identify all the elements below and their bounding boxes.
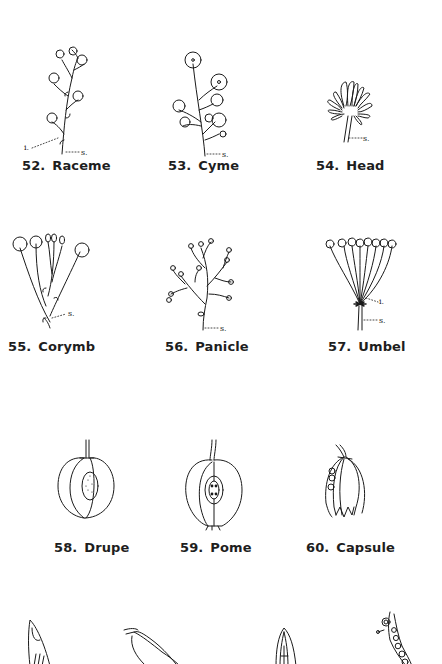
svg-text:s.: s. bbox=[81, 148, 88, 157]
svg-text:i.: i. bbox=[24, 143, 29, 152]
figure-label-head: 54.Head bbox=[316, 158, 385, 173]
head-illustration: s. bbox=[318, 78, 398, 148]
figure-name: Umbel bbox=[358, 339, 405, 354]
umbel-illustration: i. s. bbox=[322, 232, 406, 332]
figure-number: 56. bbox=[165, 339, 188, 354]
figure-label-panicle: 56.Panicle bbox=[165, 339, 249, 354]
panicle-illustration: s. bbox=[165, 238, 245, 334]
svg-text:s.: s. bbox=[68, 309, 75, 318]
figure-name: Drupe bbox=[84, 540, 129, 555]
figure-number: 53. bbox=[168, 158, 191, 173]
figure-number: 59. bbox=[180, 540, 203, 555]
capsule-illustration bbox=[320, 443, 370, 523]
figure-label-umbel: 57.Umbel bbox=[328, 339, 406, 354]
figure-name: Capsule bbox=[336, 540, 395, 555]
figure-name: Panicle bbox=[195, 339, 248, 354]
cyme-illustration: s. bbox=[165, 50, 245, 160]
figure-name: Raceme bbox=[52, 158, 110, 173]
corymb-illustration: s. bbox=[6, 232, 96, 332]
figure-label-capsule: 60.Capsule bbox=[306, 540, 395, 555]
figure-label-cyme: 53.Cyme bbox=[168, 158, 239, 173]
figure-name: Head bbox=[346, 158, 384, 173]
figure-number: 60. bbox=[306, 540, 329, 555]
figure-label-drupe: 58.Drupe bbox=[54, 540, 129, 555]
figure-label-pome: 59.Pome bbox=[180, 540, 252, 555]
drupe-illustration bbox=[56, 438, 120, 524]
figure-label-raceme: 52.Raceme bbox=[22, 158, 111, 173]
svg-text:s.: s. bbox=[363, 134, 370, 143]
figure-number: 52. bbox=[22, 158, 45, 173]
figure-name: Pome bbox=[210, 540, 251, 555]
svg-text:s.: s. bbox=[379, 316, 386, 325]
figure-number: 55. bbox=[8, 339, 31, 354]
figure-name: Corymb bbox=[38, 339, 95, 354]
svg-text:s.: s. bbox=[220, 324, 227, 333]
figure-name: Cyme bbox=[198, 158, 239, 173]
partial-fruit-illustration-4 bbox=[376, 610, 416, 664]
partial-fruit-illustration-1 bbox=[24, 618, 60, 664]
figure-number: 57. bbox=[328, 339, 351, 354]
partial-fruit-illustration-3 bbox=[272, 626, 302, 664]
partial-fruit-illustration-2 bbox=[122, 624, 184, 664]
figure-number: 54. bbox=[316, 158, 339, 173]
figure-label-corymb: 55.Corymb bbox=[8, 339, 95, 354]
pome-illustration bbox=[182, 438, 246, 532]
raceme-illustration: i. s. bbox=[20, 48, 100, 158]
svg-text:i.: i. bbox=[379, 297, 384, 306]
figure-number: 58. bbox=[54, 540, 77, 555]
